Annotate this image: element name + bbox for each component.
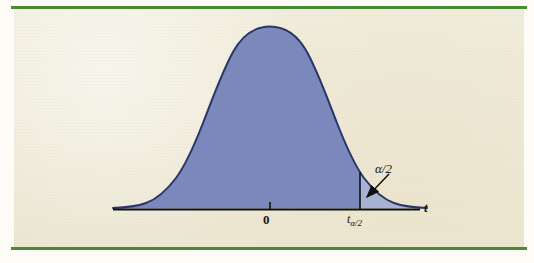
axis-label-t-critical: tα/2 (347, 213, 362, 228)
alpha-half-label: α/2 (375, 162, 392, 175)
axis-name-t: t (424, 201, 428, 214)
axis-label-zero: 0 (263, 213, 270, 226)
distribution-body-fill (113, 27, 427, 209)
t-critical-subscript: α/2 (350, 218, 362, 228)
figure-root: α/2 0 tα/2 t (0, 0, 534, 263)
